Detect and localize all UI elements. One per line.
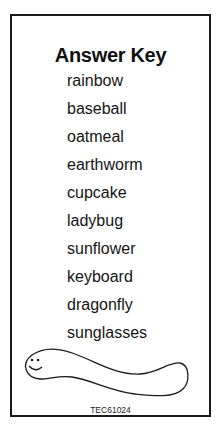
worm-eye-right	[37, 359, 40, 362]
worm-eye-left	[31, 359, 34, 362]
worm-icon	[0, 0, 217, 437]
